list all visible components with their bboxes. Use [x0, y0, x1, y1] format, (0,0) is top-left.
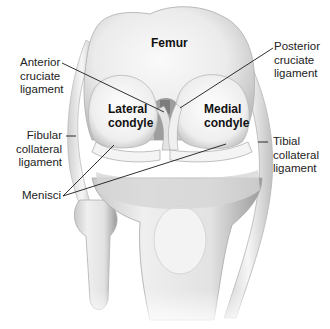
- label-fibular-collateral-ligament: Fibular collateral ligament: [12, 129, 62, 170]
- label-lateral-condyle: Lateral condyle: [108, 102, 153, 130]
- label-menisci: Menisci: [14, 189, 61, 203]
- label-medial-condyle: Medial condyle: [204, 102, 249, 130]
- label-posterior-cruciate-ligament: Posterior cruciate ligament: [274, 40, 320, 81]
- label-anterior-cruciate-ligament: Anterior cruciate ligament: [20, 56, 60, 97]
- label-tibial-collateral-ligament: Tibial collateral ligament: [273, 135, 319, 176]
- tibial-tuberosity: [154, 206, 206, 274]
- knee-anatomy-figure: Femur Lateral condyle Medial condyle Ant…: [0, 0, 330, 329]
- label-femur: Femur: [151, 36, 188, 50]
